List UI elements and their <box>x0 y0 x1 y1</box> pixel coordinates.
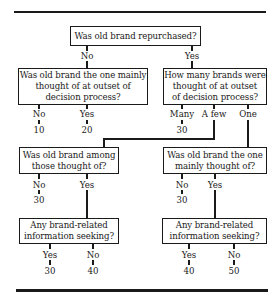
connector <box>38 174 40 179</box>
edge-label-no: No <box>176 180 189 190</box>
node-mainly-thought-of: Was old brand the one mainly thought of? <box>163 147 267 174</box>
node-mainly-thought-of-outset: Was old brand the one mainly thought of … <box>18 68 148 105</box>
edge-label-yes: Yes <box>208 180 222 190</box>
node-old-brand-repurchased: Was old brand repurchased? <box>70 26 201 46</box>
connector <box>103 138 215 140</box>
edge-label-no: No <box>33 180 46 190</box>
connector <box>49 260 51 265</box>
connector <box>214 190 216 218</box>
connector <box>92 244 94 249</box>
edge-label-no: No <box>33 109 46 119</box>
edge-label-yes: Yes <box>43 250 57 260</box>
connector <box>86 174 88 179</box>
outcome-value: 30 <box>34 195 45 205</box>
edge-label-no: No <box>87 250 100 260</box>
connector <box>181 120 183 124</box>
bottom-rule <box>16 289 268 292</box>
node-info-seeking-left: Any brand-related information seeking? <box>19 218 119 244</box>
edge-label-many: Many <box>170 109 194 119</box>
connector <box>233 260 235 265</box>
edge-label-no: No <box>81 51 94 61</box>
edge-label-one: One <box>239 109 257 119</box>
outcome-value: 20 <box>82 125 93 135</box>
outcome-value: 40 <box>88 266 99 276</box>
connector <box>181 190 183 194</box>
connector <box>181 174 183 179</box>
connector <box>86 61 88 68</box>
outcome-value: 30 <box>45 266 56 276</box>
edge-label-no: No <box>228 250 241 260</box>
connector <box>247 120 249 147</box>
connector <box>103 138 105 147</box>
connector <box>86 120 88 124</box>
edge-label-yes: Yes <box>185 51 199 61</box>
connector <box>188 260 190 265</box>
edge-label-yes: Yes <box>182 250 196 260</box>
connector <box>214 174 216 179</box>
node-info-seeking-right: Any brand-related information seeking? <box>162 218 267 244</box>
edge-label-yes: Yes <box>80 109 94 119</box>
outcome-value: 30 <box>177 195 188 205</box>
outcome-value: 10 <box>34 125 45 135</box>
top-rule <box>14 11 266 13</box>
connector <box>38 190 40 194</box>
connector <box>38 120 40 124</box>
node-how-many-brands: How many brands were thought of at outse… <box>163 68 267 105</box>
connector <box>233 244 235 249</box>
connector <box>188 244 190 249</box>
outcome-value: 40 <box>184 266 195 276</box>
outcome-value: 30 <box>177 125 188 135</box>
connector <box>191 61 193 68</box>
connector <box>92 260 94 265</box>
node-among-those-thought-of: Was old brand among those thought of? <box>19 147 119 174</box>
connector <box>86 190 88 218</box>
edge-label-a-few: A few <box>202 109 227 119</box>
outcome-value: 50 <box>229 266 240 276</box>
edge-label-yes: Yes <box>80 180 94 190</box>
connector <box>49 244 51 249</box>
connector <box>213 120 215 139</box>
